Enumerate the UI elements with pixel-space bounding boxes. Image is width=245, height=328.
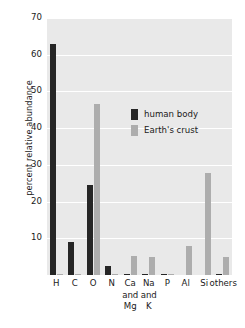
bar — [112, 274, 118, 275]
bar — [105, 266, 111, 275]
bar-group — [66, 18, 85, 275]
bar — [149, 257, 155, 275]
bar-group — [195, 18, 214, 275]
legend-item: human body — [131, 107, 231, 122]
legend-swatch-human-body — [131, 109, 138, 120]
y-axis-tick-label: 30 — [20, 160, 42, 169]
legend-item-label: Earth's crust — [144, 125, 198, 136]
bar-group — [177, 18, 196, 275]
bar-group — [103, 18, 122, 275]
bar — [131, 256, 137, 275]
bar — [50, 44, 56, 275]
bar — [75, 274, 81, 275]
bar — [94, 104, 100, 275]
y-axis-tick-label: 60 — [20, 50, 42, 59]
bar-group — [47, 18, 66, 275]
bar-chart: percent relative abundance 1020304050607… — [0, 0, 245, 328]
x-axis-tick-labels: HCONCaandMgNaandKPAlSiothers — [47, 278, 232, 328]
y-axis-tick-label: 50 — [20, 86, 42, 95]
chart-legend: human bodyEarth's crust — [131, 107, 231, 139]
legend-item: Earth's crust — [131, 123, 231, 138]
y-axis-tick-label: 10 — [20, 233, 42, 242]
bars-layer — [47, 18, 232, 275]
bar — [216, 274, 222, 275]
x-axis-tick-label: others — [210, 278, 237, 290]
y-axis-tick-label: 20 — [20, 197, 42, 206]
bar — [205, 173, 211, 275]
bar — [124, 274, 130, 275]
x-axis-tick-label-line: and — [136, 290, 163, 302]
plot-area — [47, 18, 232, 275]
x-axis-tick-label-line: K — [136, 301, 163, 313]
bar — [161, 274, 167, 275]
bar-group — [121, 18, 140, 275]
bar — [223, 257, 229, 275]
y-axis-tick-label: 70 — [20, 13, 42, 22]
bar — [87, 185, 93, 275]
legend-swatch-earths-crust — [131, 125, 138, 136]
bar-group — [84, 18, 103, 275]
y-axis-tick-label: 40 — [20, 123, 42, 132]
x-axis-tick-label-line: others — [210, 278, 237, 290]
legend-item-label: human body — [144, 109, 198, 120]
y-axis-tick-labels: 10203040506070 — [18, 0, 42, 328]
bar-group — [158, 18, 177, 275]
bar — [142, 274, 148, 275]
bar — [186, 246, 192, 275]
bar — [168, 274, 174, 275]
bar-group — [140, 18, 159, 275]
bar — [68, 242, 74, 275]
bar-group — [214, 18, 233, 275]
bar — [57, 274, 63, 275]
